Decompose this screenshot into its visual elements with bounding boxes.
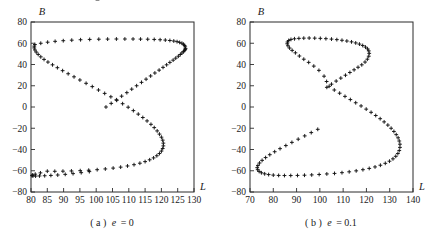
data-point-marker [360,63,364,67]
x-tick-label: 85 [43,195,53,205]
data-point-marker [294,51,298,55]
data-point-marker [115,98,119,102]
data-point-marker [63,172,67,176]
x-tick-label: 120 [154,195,169,205]
data-point-marker [333,172,337,176]
x-tick-label: 110 [336,195,350,205]
data-point-marker [278,147,282,151]
data-point-marker [45,169,49,173]
data-point-marker [132,163,136,167]
data-point-marker [149,122,153,126]
data-point-marker [136,112,140,116]
data-point-marker [398,145,402,149]
data-point-marker [131,37,135,41]
data-point-marker [53,169,57,173]
data-point-marker [61,69,65,73]
data-point-marker [158,152,162,156]
x-axis-ticks-b [250,188,413,192]
data-point-marker [290,140,294,144]
data-point-marker [36,53,40,57]
data-point-marker [334,79,338,83]
data-point-marker [344,73,348,77]
data-point-marker [56,66,60,70]
x-axis-label-b: L [418,181,425,192]
data-point-marker [264,156,268,160]
y-axis-ticks-b [250,22,254,192]
chart-svg-b: 708090100110120130140 −80−60−40−20020406… [218,0,436,243]
data-point-marker [297,36,301,40]
y-tick-label: 80 [18,17,28,27]
y-tick-label: 80 [237,17,247,27]
data-point-marker [379,163,383,167]
data-point-marker [268,153,272,157]
plot-frame-b [250,22,413,192]
data-point-marker [78,78,82,82]
caption-symbol-a: e [112,217,117,228]
data-point-marker [322,74,326,78]
data-point-marker [388,159,392,163]
data-point-marker [255,166,259,170]
x-tick-label: 80 [26,195,36,205]
data-point-marker [369,110,373,114]
data-point-marker [172,39,176,43]
data-point-marker [356,65,360,69]
data-point-marker [277,174,281,178]
y-tick-label: 0 [22,102,27,112]
x-tick-label: 120 [359,195,374,205]
x-tick-label: 100 [313,195,328,205]
data-point-marker [152,38,156,42]
data-point-marker [168,39,172,43]
caption-value-a: = 0 [121,217,134,228]
data-point-marker [149,74,153,78]
x-axis-ticks-a [31,188,194,192]
data-point-marker [394,133,398,137]
data-point-marker [119,165,123,169]
data-point-marker [61,169,65,173]
x-tick-label: 100 [89,195,104,205]
y-axis-label-b: B [258,6,265,17]
data-point-marker [340,38,344,42]
data-point-marker [316,127,320,131]
data-point-marker [354,169,358,173]
x-tick-label: 130 [187,195,202,205]
data-point-marker [141,116,145,120]
data-point-marker [88,38,92,42]
data-point-marker [296,174,300,178]
data-point-marker [352,68,356,72]
data-point-marker [121,102,125,106]
data-point-marker [293,37,297,41]
data-point-marker [307,60,311,64]
data-point-marker [174,56,178,60]
y-tick-label: −60 [231,166,246,176]
data-point-marker [144,77,148,81]
data-point-marker [125,91,129,95]
x-tick-label: 90 [59,195,69,205]
data-point-marker [51,63,55,67]
x-tick-label: 140 [406,195,421,205]
data-point-marker [178,41,182,45]
y-tick-label: 20 [237,81,247,91]
data-point-marker [161,144,165,148]
data-point-marker [39,55,43,59]
data-point-marker [90,85,94,89]
data-point-marker [79,38,83,42]
data-point-marker [361,168,365,172]
data-point-marker [70,38,74,42]
data-point-marker [335,38,339,42]
data-point-marker [131,109,135,113]
data-point-marker [153,71,157,75]
data-point-marker [367,167,371,171]
data-point-marker [325,80,329,84]
data-point-marker [140,80,144,84]
data-point-marker [163,38,167,42]
chart-panel-b: 708090100110120130140 −80−60−40−20020406… [218,0,436,243]
data-point-marker [383,161,387,165]
caption-symbol-b: e [327,217,332,228]
data-point-marker [347,170,351,174]
data-point-marker [138,161,142,165]
data-point-marker [343,94,347,98]
data-point-marker [39,41,43,45]
x-axis-tick-labels-a: 80859095100105110115120125130 [26,195,201,205]
x-tick-label: 95 [75,195,85,205]
data-point-marker [297,54,301,58]
